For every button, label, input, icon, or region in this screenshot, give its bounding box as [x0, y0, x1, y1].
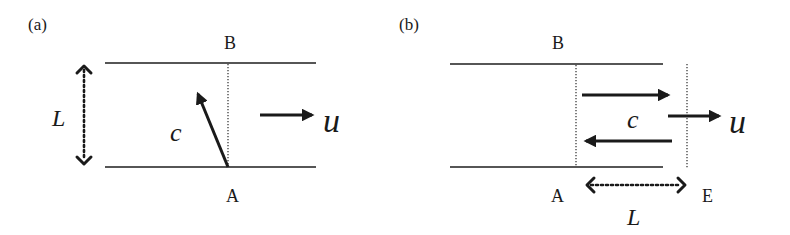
wave-speed-arrow-icon: [198, 94, 228, 167]
point-e-label: E: [702, 186, 713, 206]
distance-double-arrow-icon: [77, 66, 91, 164]
flow-speed-label: u: [729, 103, 746, 140]
distance-label: L: [51, 105, 65, 131]
panel-b: (b) B A E c u L: [399, 15, 746, 230]
wave-speed-label: c: [170, 118, 182, 147]
point-b-label: B: [552, 33, 564, 53]
distance-double-arrow-icon: [587, 178, 685, 192]
wave-speed-label: c: [627, 105, 639, 134]
point-a-label: A: [226, 186, 239, 206]
distance-label: L: [626, 204, 640, 230]
panel-a-label: (a): [28, 15, 47, 34]
panel-a: (a) B A L c u: [28, 15, 340, 206]
flow-speed-label: u: [323, 102, 340, 139]
point-a-label: A: [551, 186, 564, 206]
point-b-label: B: [224, 33, 236, 53]
panel-b-label: (b): [399, 15, 419, 34]
diagram-canvas: (a) B A L c u (b) B A E c u: [0, 0, 790, 235]
